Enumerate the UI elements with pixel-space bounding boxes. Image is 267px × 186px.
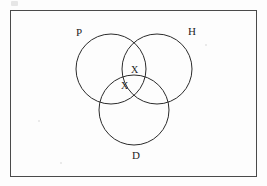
scanned-page-background: P H D X X	[0, 0, 267, 186]
region-mark-p-and-h: X	[131, 65, 138, 75]
region-mark-p-and-d: X	[121, 81, 128, 91]
set-circle-d	[99, 75, 169, 145]
set-label-d: D	[132, 150, 140, 161]
set-label-h: H	[188, 26, 196, 37]
set-label-p: P	[76, 27, 82, 38]
